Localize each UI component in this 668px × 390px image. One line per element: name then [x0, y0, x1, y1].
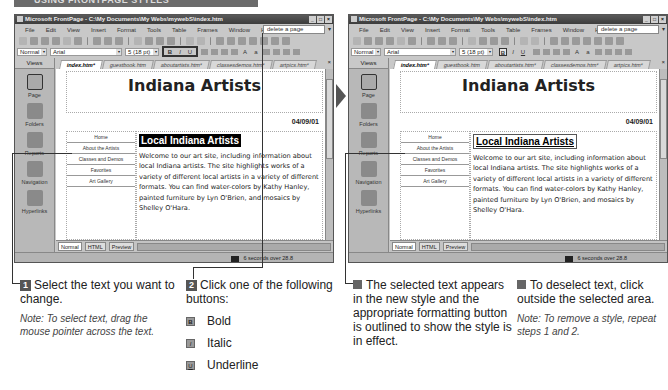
menu-table[interactable]: Table: [172, 27, 186, 33]
italic-button[interactable]: I: [176, 48, 184, 56]
preview-icon[interactable]: [438, 37, 446, 45]
vertical-scrollbar[interactable]: [659, 69, 667, 240]
chevron-down-icon[interactable]: ▾: [660, 25, 666, 34]
chevron-down-icon[interactable]: ▾: [326, 25, 332, 34]
web-component-icon[interactable]: [550, 37, 558, 45]
copy-icon[interactable]: [145, 37, 153, 45]
maximize-icon[interactable]: □: [317, 16, 324, 23]
maximize-icon[interactable]: □: [651, 16, 658, 23]
close-icon[interactable]: ×: [325, 16, 332, 23]
help-search-input[interactable]: delete a page: [597, 25, 659, 34]
preview-icon[interactable]: [104, 37, 112, 45]
drawing-icon[interactable]: [583, 37, 591, 45]
nav-item-home[interactable]: Home: [67, 132, 135, 143]
minimize-icon[interactable]: _: [643, 16, 650, 23]
menu-frames[interactable]: Frames: [197, 27, 217, 33]
print-preview-icon[interactable]: [74, 37, 82, 45]
tab-guestbook[interactable]: guestbook.htm: [102, 60, 154, 69]
tab-artpics[interactable]: artpics.htm*: [606, 60, 651, 69]
insert-picture-icon[interactable]: [572, 37, 580, 45]
tab-preview[interactable]: Preview: [443, 242, 469, 251]
print-preview-icon[interactable]: [408, 37, 416, 45]
undo-icon[interactable]: [186, 37, 194, 45]
cut-icon[interactable]: [134, 37, 142, 45]
scroll-thumb[interactable]: [660, 79, 667, 159]
copy-icon[interactable]: [479, 37, 487, 45]
menu-edit[interactable]: Edit: [380, 27, 390, 33]
style-select[interactable]: Normal▾: [351, 48, 381, 56]
close-icon[interactable]: ×: [659, 16, 666, 23]
insert-table-icon[interactable]: [561, 37, 569, 45]
tab-index[interactable]: index.htm*: [59, 60, 103, 69]
tab-artpics[interactable]: artpics.htm*: [272, 60, 317, 69]
save-icon[interactable]: [375, 37, 383, 45]
minimize-icon[interactable]: _: [309, 16, 316, 23]
tab-guestbook[interactable]: guestbook.htm: [436, 60, 488, 69]
tab-aboutartists[interactable]: aboutartists.htm*: [153, 60, 210, 69]
decrease-font-icon[interactable]: a: [584, 48, 592, 56]
print-icon[interactable]: [93, 37, 101, 45]
refresh-icon[interactable]: [271, 37, 279, 45]
menu-format[interactable]: Format: [451, 27, 470, 33]
menu-insert[interactable]: Insert: [91, 27, 106, 33]
underline-button[interactable]: U: [186, 48, 194, 56]
welcome-paragraph[interactable]: Welcome to our art site, including infor…: [471, 149, 656, 215]
menu-window[interactable]: Window: [563, 27, 584, 33]
view-folders[interactable]: Folders: [15, 103, 54, 127]
refresh-icon[interactable]: [605, 37, 613, 45]
stop-icon[interactable]: [616, 37, 624, 45]
menu-window[interactable]: Window: [229, 27, 250, 33]
hyperlink-icon[interactable]: [594, 37, 602, 45]
menu-table[interactable]: Table: [506, 27, 520, 33]
menu-edit[interactable]: Edit: [46, 27, 56, 33]
font-size-select[interactable]: 5 (18 pt)▾: [125, 48, 159, 56]
font-size-select[interactable]: 5 (18 pt)▾: [459, 48, 493, 56]
menu-file[interactable]: File: [359, 27, 369, 33]
scroll-thumb[interactable]: [326, 79, 333, 159]
justify-icon[interactable]: [231, 49, 238, 55]
menu-tools[interactable]: Tools: [481, 27, 495, 33]
style-select[interactable]: Normal▾: [17, 48, 47, 56]
tab-classesdemos[interactable]: classesdemos.htm*: [210, 60, 274, 69]
tab-preview[interactable]: Preview: [109, 242, 135, 251]
bulleted-list-icon[interactable]: [273, 49, 280, 55]
tab-classesdemos[interactable]: classesdemos.htm*: [544, 60, 608, 69]
menu-tools[interactable]: Tools: [147, 27, 161, 33]
paste-icon[interactable]: [156, 37, 164, 45]
menu-frames[interactable]: Frames: [531, 27, 551, 33]
menu-file[interactable]: File: [25, 27, 35, 33]
save-icon[interactable]: [41, 37, 49, 45]
menu-view[interactable]: View: [67, 27, 80, 33]
stop-icon[interactable]: [282, 37, 290, 45]
nav-item-gallery[interactable]: Art Gallery: [401, 176, 469, 187]
print-icon[interactable]: [427, 37, 435, 45]
font-select[interactable]: Arial▾: [50, 48, 122, 56]
tab-html[interactable]: HTML: [85, 242, 106, 251]
nav-item-favorites[interactable]: Favorites: [67, 165, 135, 176]
underline-button[interactable]: U: [519, 48, 527, 56]
justify-icon[interactable]: [563, 49, 570, 55]
cut-icon[interactable]: [468, 37, 476, 45]
insert-table-icon[interactable]: [227, 37, 235, 45]
increase-font-icon[interactable]: A: [573, 48, 581, 56]
align-center-icon[interactable]: [543, 49, 550, 55]
view-page[interactable]: Page: [349, 74, 388, 98]
view-folders[interactable]: Folders: [349, 103, 388, 127]
vertical-scrollbar[interactable]: [325, 69, 333, 240]
web-component-icon[interactable]: [216, 37, 224, 45]
horizontal-scrollbar[interactable]: [137, 243, 331, 251]
bulleted-list-icon[interactable]: [605, 49, 612, 55]
align-left-icon[interactable]: [201, 49, 208, 55]
decrease-indent-icon[interactable]: [615, 49, 622, 55]
menu-insert[interactable]: Insert: [425, 27, 440, 33]
help-search-input[interactable]: delete a page: [263, 25, 325, 34]
tab-index[interactable]: index.htm*: [393, 60, 437, 69]
welcome-paragraph[interactable]: Welcome to our art site, including infor…: [137, 147, 322, 213]
format-painter-icon[interactable]: [501, 37, 509, 45]
nav-item-classes[interactable]: Classes and Demos: [401, 154, 469, 165]
bold-button[interactable]: B: [499, 48, 507, 56]
horizontal-scrollbar[interactable]: [471, 243, 665, 251]
page-editor[interactable]: Indiana Artists 04/09/01 Home About the …: [390, 69, 659, 240]
insert-picture-icon[interactable]: [238, 37, 246, 45]
format-painter-icon[interactable]: [167, 37, 175, 45]
